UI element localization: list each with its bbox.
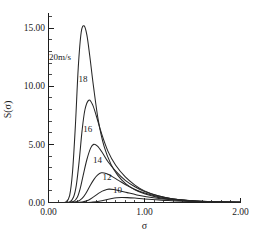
y-tick-label: 10.00 (24, 81, 46, 91)
curve-label-18: 18 (79, 74, 89, 84)
chart-plot-area: 0.005.0010.0015.00 0.001.002.00 20m/s181… (0, 0, 256, 238)
y-tick-label: 5.00 (28, 140, 45, 150)
spectrum-chart-figure: 0.005.0010.0015.00 0.001.002.00 20m/s181… (0, 0, 256, 238)
curve-series-labels: 20m/s1816141210 (49, 52, 123, 195)
curve-18 (49, 100, 241, 202)
y-axis-title: S(σ) (2, 101, 14, 119)
x-tick-label: 2.00 (232, 207, 249, 217)
x-axis-tick-labels: 0.001.002.00 (40, 207, 249, 217)
curve-label-16: 16 (83, 124, 93, 134)
curve-label-14: 14 (93, 155, 103, 165)
x-axis-title: σ (142, 220, 148, 231)
x-tick-label: 1.00 (136, 207, 153, 217)
y-tick-label: 15.00 (24, 23, 46, 33)
data-curves (49, 26, 241, 203)
curve-label-12: 12 (103, 172, 112, 182)
curve-label-20ms: 20m/s (49, 52, 72, 62)
curve-label-10: 10 (113, 185, 123, 195)
x-tick-label: 0.00 (40, 207, 57, 217)
y-axis-tick-labels: 0.005.0010.0015.00 (24, 23, 46, 207)
